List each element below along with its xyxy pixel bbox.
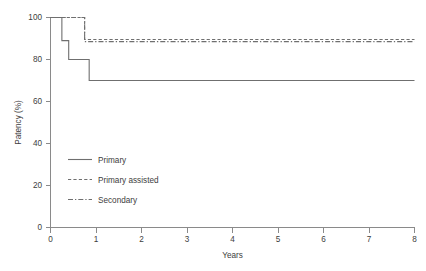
y-tick-label-80: 80 — [33, 55, 43, 64]
x-axis-title: Years — [222, 251, 243, 260]
x-tick-label-4: 4 — [230, 235, 235, 244]
x-tick-label-0: 0 — [48, 235, 53, 244]
survival-curve-chart: 0 20 40 60 80 100 0 1 2 3 4 5 6 7 8 — [0, 0, 426, 271]
x-tick-label-8: 8 — [412, 235, 417, 244]
x-tick-label-6: 6 — [321, 235, 326, 244]
y-tick-label-100: 100 — [28, 13, 42, 22]
x-axis-ticks: 0 1 2 3 4 5 6 7 8 — [48, 228, 417, 245]
x-tick-label-3: 3 — [185, 235, 190, 244]
chart-svg: 0 20 40 60 80 100 0 1 2 3 4 5 6 7 8 — [0, 0, 426, 271]
x-tick-label-1: 1 — [94, 235, 99, 244]
y-axis-title: Patency (%) — [14, 100, 23, 145]
x-tick-label-2: 2 — [139, 235, 144, 244]
chart-legend: Primary Primary assisted Secondary — [68, 156, 159, 205]
y-tick-label-20: 20 — [33, 181, 43, 190]
y-tick-label-0: 0 — [37, 223, 42, 232]
series-line-primary-assisted — [51, 18, 415, 40]
y-tick-label-40: 40 — [33, 139, 43, 148]
y-tick-label-60: 60 — [33, 97, 43, 106]
x-tick-label-7: 7 — [367, 235, 372, 244]
series-line-secondary — [51, 18, 415, 42]
x-tick-label-5: 5 — [276, 235, 281, 244]
legend-label-primary: Primary — [98, 156, 127, 165]
y-axis-ticks: 0 20 40 60 80 100 — [28, 13, 50, 232]
legend-label-primary-assisted: Primary assisted — [98, 176, 159, 185]
data-series-layer — [51, 18, 415, 81]
series-line-primary — [51, 18, 415, 81]
legend-label-secondary: Secondary — [98, 196, 138, 205]
